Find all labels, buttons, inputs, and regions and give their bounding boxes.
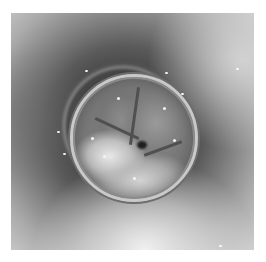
specular-highlight bbox=[117, 97, 120, 100]
valve-orifice bbox=[137, 141, 147, 149]
suture-highlight bbox=[63, 153, 66, 155]
suture-highlight bbox=[57, 131, 60, 133]
specular-highlight bbox=[91, 137, 94, 140]
endoscopic-photo bbox=[11, 13, 254, 250]
suture-highlight bbox=[165, 72, 168, 74]
specular-highlight bbox=[133, 177, 136, 180]
prosthetic-valve bbox=[70, 74, 198, 202]
suture-highlight bbox=[85, 70, 88, 72]
dust-speck bbox=[219, 245, 222, 247]
specular-highlight bbox=[173, 139, 176, 142]
leaflet-seam bbox=[144, 140, 183, 156]
suture-highlight bbox=[181, 93, 184, 95]
specular-highlight bbox=[163, 107, 166, 110]
specular-highlight bbox=[103, 155, 106, 158]
suture-highlight bbox=[236, 68, 239, 70]
